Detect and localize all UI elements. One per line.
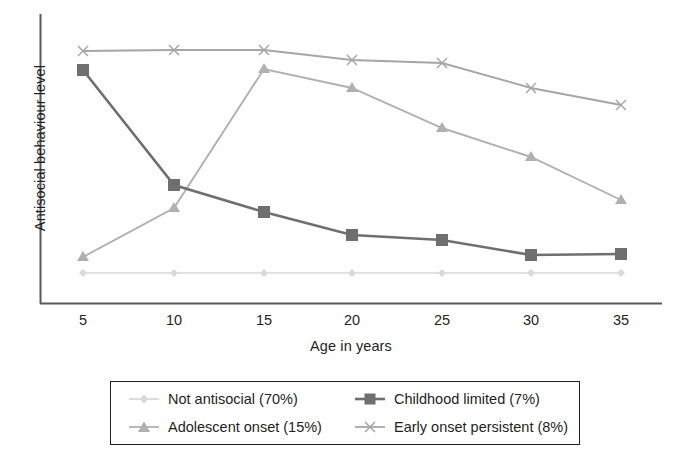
- x-tick-10: 10: [154, 312, 194, 328]
- y-axis-title: Antisocial behaviour level: [32, 28, 48, 268]
- x-tick-25: 25: [422, 312, 462, 328]
- legend-item-childhood-limited[interactable]: Childhood limited (7%): [353, 391, 579, 407]
- legend-label-childhood-limited: Childhood limited (7%): [394, 391, 540, 407]
- diamond-marker-icon: [127, 391, 161, 407]
- x-axis-title: Age in years: [40, 338, 662, 354]
- legend-item-not-antisocial[interactable]: Not antisocial (70%): [127, 391, 353, 407]
- legend-item-early-onset-persistent[interactable]: Early onset persistent (8%): [353, 419, 579, 435]
- antisocial-behaviour-line-chart: Antisocial behaviour level Age in years …: [0, 0, 673, 468]
- legend-label-not-antisocial: Not antisocial (70%): [168, 391, 298, 407]
- square-marker-icon: [353, 391, 387, 407]
- x-tick-30: 30: [511, 312, 551, 328]
- x-tick-5: 5: [63, 312, 103, 328]
- triangle-marker-icon: [127, 419, 161, 435]
- x-tick-20: 20: [332, 312, 372, 328]
- x-tick-15: 15: [244, 312, 284, 328]
- x-marker-icon: [353, 419, 387, 435]
- legend-label-early-onset-persistent: Early onset persistent (8%): [394, 419, 568, 435]
- legend-label-adolescent-onset: Adolescent onset (15%): [168, 419, 322, 435]
- series-not-antisocial: [79, 269, 625, 277]
- series-early-onset-persistent: [78, 45, 626, 110]
- x-tick-35: 35: [601, 312, 641, 328]
- chart-legend: Not antisocial (70%) Childhood limited (…: [110, 381, 580, 445]
- legend-item-adolescent-onset[interactable]: Adolescent onset (15%): [127, 419, 353, 435]
